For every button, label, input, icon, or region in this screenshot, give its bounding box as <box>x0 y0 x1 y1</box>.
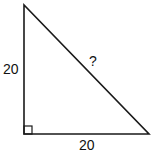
triangle <box>24 5 149 134</box>
hypotenuse-label: ? <box>89 53 97 69</box>
bottom-side-label: 20 <box>79 137 95 152</box>
left-side-label: 20 <box>3 61 19 77</box>
right-angle-marker <box>24 126 32 134</box>
right-triangle-diagram: 20 ? 20 <box>0 0 156 152</box>
